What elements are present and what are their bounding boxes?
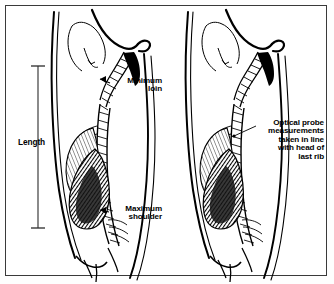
annotation-minimum-loin: Minimum loin bbox=[112, 77, 162, 94]
annotation-maximum-shoulder: Maximum shoulder bbox=[110, 205, 162, 222]
left-carcass-drawing bbox=[52, 10, 155, 282]
annotation-length: Length bbox=[18, 138, 60, 146]
annotation-optical-probe: Optical probe measurements taken in line… bbox=[258, 119, 324, 161]
length-measure-bar bbox=[31, 66, 45, 228]
figure-root: Minimum loin Maximum shoulder Length Opt… bbox=[0, 0, 334, 284]
optical-probe-leader bbox=[232, 126, 256, 138]
